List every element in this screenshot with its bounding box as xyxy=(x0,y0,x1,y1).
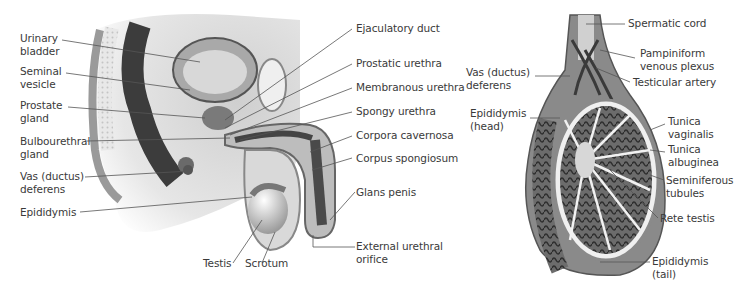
label-vas-deferens-right: Vas (ductus) deferens xyxy=(466,66,530,91)
label-seminiferous-tubules: Seminiferous tubules xyxy=(666,174,733,199)
label-tunica-vaginalis: Tunica vaginalis xyxy=(668,115,714,140)
label-spermatic-cord: Spermatic cord xyxy=(628,17,706,30)
label-glans-penis: Glans penis xyxy=(356,186,416,199)
label-prostate-gland: Prostate gland xyxy=(20,99,62,124)
label-prostatic-urethra: Prostatic urethra xyxy=(356,57,442,70)
sagittal-section xyxy=(92,14,335,250)
label-spongy-urethra: Spongy urethra xyxy=(356,105,436,118)
label-pampiniform-plexus: Pampiniform venous plexus xyxy=(640,47,714,72)
label-tunica-albuginea: Tunica albuginea xyxy=(668,143,719,168)
label-bulbourethral-gland: Bulbourethral gland xyxy=(20,135,90,160)
label-testis: Testis xyxy=(203,257,231,270)
label-epididymis-tail: Epididymis (tail) xyxy=(652,255,708,280)
label-corpus-spongiosum: Corpus spongiosum xyxy=(356,152,458,165)
label-urinary-bladder: Urinary bladder xyxy=(20,32,59,57)
label-ejaculatory-duct: Ejaculatory duct xyxy=(356,22,440,35)
label-rete-testis: Rete testis xyxy=(660,212,715,225)
label-corpora-cavernosa: Corpora cavernosa xyxy=(356,129,454,142)
label-testicular-artery: Testicular artery xyxy=(633,76,716,89)
label-scrotum: Scrotum xyxy=(245,257,288,270)
label-seminal-vesicle: Seminal vesicle xyxy=(20,65,62,90)
label-membranous-urethra: Membranous urethra xyxy=(356,81,465,94)
label-vas-deferens: Vas (ductus) deferens xyxy=(20,170,84,195)
label-epididymis: Epididymis xyxy=(20,206,76,219)
label-epididymis-head: Epididymis (head) xyxy=(470,107,526,132)
label-external-urethral-orifice: External urethral orifice xyxy=(356,240,443,265)
